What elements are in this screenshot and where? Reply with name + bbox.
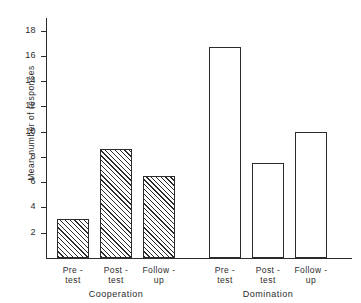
y-tick-label: 16 — [8, 51, 36, 60]
category-label-line1: Post - — [256, 265, 281, 275]
y-tick-label: 14 — [8, 76, 36, 85]
x-axis-line — [46, 258, 352, 259]
y-tick-mark — [41, 182, 47, 183]
category-label-line1: Pre - — [63, 265, 83, 275]
y-tick-label: 10 — [8, 127, 36, 136]
category-label-line2: up — [129, 275, 189, 285]
group-label-domination: Domination — [218, 289, 318, 299]
category-label-line1: Pre - — [215, 265, 235, 275]
y-tick-label: 6 — [8, 177, 36, 186]
category-label-line1: Post - — [104, 265, 129, 275]
bar-coop-post — [100, 149, 132, 258]
y-tick-label: 12 — [8, 101, 36, 110]
bar-coop-pre — [57, 219, 89, 258]
bar-dom-fup — [295, 132, 327, 258]
category-label-dom-fup: Follow -up — [281, 265, 341, 285]
y-tick-mark — [41, 207, 47, 208]
y-tick-mark — [41, 157, 47, 158]
y-tick-label: 8 — [8, 152, 36, 161]
bar-dom-pre — [209, 47, 241, 258]
y-tick-mark — [41, 81, 47, 82]
y-tick-label: 4 — [8, 202, 36, 211]
y-axis-line — [46, 18, 47, 259]
category-label-line1: Follow - — [143, 265, 176, 275]
category-label-line1: Follow - — [295, 265, 328, 275]
y-tick-mark — [41, 233, 47, 234]
y-tick-mark — [41, 106, 47, 107]
y-tick-mark — [41, 31, 47, 32]
category-label-line2: up — [281, 275, 341, 285]
group-label-cooperation: Cooperation — [66, 289, 166, 299]
y-tick-label: 18 — [8, 26, 36, 35]
bar-coop-fup — [143, 176, 175, 258]
bar-dom-post — [252, 163, 284, 258]
y-tick-mark — [41, 132, 47, 133]
category-label-coop-fup: Follow -up — [129, 265, 189, 285]
y-tick-label: 2 — [8, 228, 36, 237]
y-tick-mark — [41, 56, 47, 57]
bar-chart: Mean number of responses 24681012141618 … — [0, 0, 361, 303]
